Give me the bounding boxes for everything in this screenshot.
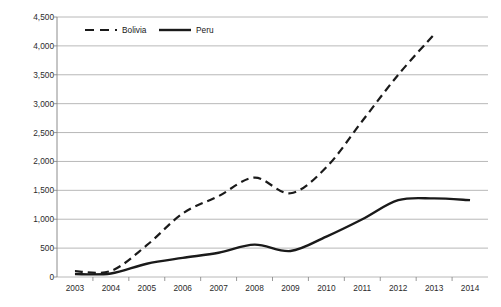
x-axis-tick-label: 2003 (66, 283, 84, 293)
x-axis-tick-label: 2011 (353, 283, 371, 293)
x-axis-tick-labels: 2003200420052006200720082009201020112012… (0, 0, 501, 307)
x-axis-tick-label: 2006 (173, 283, 191, 293)
x-axis-tick-label: 2004 (102, 283, 120, 293)
legend-item-peru: Peru (158, 25, 214, 35)
legend-swatch-solid-icon (158, 25, 192, 35)
line-chart: Millions of USD 05001,0001,5002,0002,500… (0, 0, 501, 307)
legend-swatch-dashed-icon (84, 25, 118, 35)
x-axis-tick-label: 2013 (425, 283, 443, 293)
legend-label-peru: Peru (196, 26, 214, 34)
legend-item-bolivia: Bolivia (84, 25, 146, 35)
x-axis-tick-label: 2012 (389, 283, 407, 293)
legend-label-bolivia: Bolivia (122, 26, 146, 34)
x-axis-tick-label: 2009 (281, 283, 299, 293)
x-axis-tick-label: 2005 (138, 283, 156, 293)
x-axis-tick-label: 2014 (461, 283, 479, 293)
x-axis-tick-label: 2008 (245, 283, 263, 293)
x-axis-tick-label: 2010 (317, 283, 335, 293)
x-axis-tick-label: 2007 (209, 283, 227, 293)
